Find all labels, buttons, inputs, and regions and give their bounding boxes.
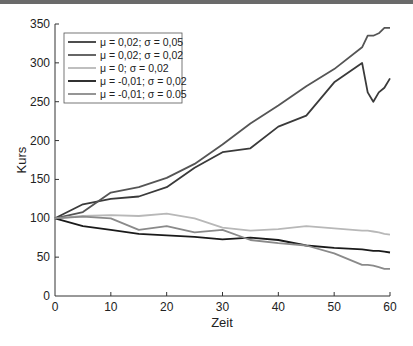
y-tick-label: 200	[30, 134, 50, 148]
y-tick-label: 300	[30, 56, 50, 70]
y-axis-label: Kurs	[14, 146, 29, 173]
legend-label: μ = -0,01; σ = 0,02	[100, 75, 187, 87]
legend-label: μ = 0,02; σ = 0,02	[100, 49, 183, 61]
line-chart: 050100150200250300350 0102030405060 Zeit…	[0, 0, 413, 346]
series-line-2	[55, 214, 390, 235]
x-tick-label: 10	[104, 300, 118, 314]
legend-label: μ = 0,02; σ = 0,05	[100, 36, 183, 48]
y-tick-label: 50	[37, 250, 51, 264]
y-tick-label: 150	[30, 172, 50, 186]
y-tick-label: 350	[30, 17, 50, 31]
series-line-4	[55, 217, 390, 269]
x-tick-label: 60	[383, 300, 397, 314]
legend-label: μ = -0,01; σ = 0.05	[100, 88, 187, 100]
x-tick-label: 20	[160, 300, 174, 314]
x-tick-label: 30	[216, 300, 230, 314]
series-line-3	[55, 218, 390, 252]
x-axis-ticks: 0102030405060	[52, 292, 397, 314]
x-tick-label: 40	[272, 300, 286, 314]
y-tick-label: 0	[43, 289, 50, 303]
legend-label: μ = 0; σ = 0,02	[100, 62, 169, 74]
legend: μ = 0,02; σ = 0,05μ = 0,02; σ = 0,02μ = …	[64, 33, 187, 103]
x-tick-label: 0	[52, 300, 59, 314]
x-tick-label: 50	[327, 300, 341, 314]
x-axis-label: Zeit	[211, 315, 233, 330]
y-tick-label: 100	[30, 211, 50, 225]
y-tick-label: 250	[30, 95, 50, 109]
